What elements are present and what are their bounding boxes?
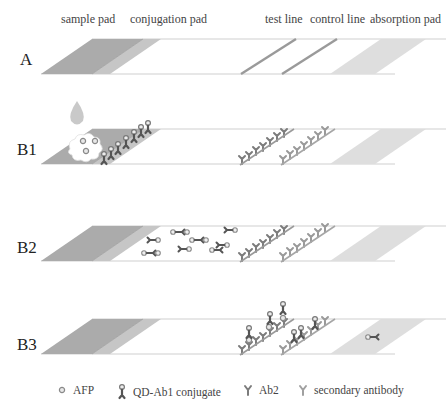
sample-blob [68, 133, 102, 161]
legend-item-conjugate: QD-Ab1 conjugate [117, 384, 221, 400]
strip-b3 [41, 302, 446, 355]
legend-item-ab2: Ab2 [243, 384, 279, 396]
lateral-flow-diagram: sample pad conjugation pad test line con… [0, 0, 448, 411]
legend-label-ab2: Ab2 [259, 384, 279, 396]
legend-label-conjugate: QD-Ab1 conjugate [133, 386, 221, 398]
strips-svg [0, 0, 448, 411]
legend-item-secondary: secondary antibody [298, 384, 404, 396]
strip-b1 [41, 121, 446, 165]
legend: AFP QD-Ab1 conjugate Ab2 secondary antib… [0, 384, 448, 404]
ab2-icon [243, 384, 253, 396]
strip-a [41, 39, 446, 74]
legend-label-secondary: secondary antibody [314, 384, 404, 396]
sample-drop-icon [70, 101, 84, 125]
secondary-antibody-icon [298, 384, 308, 396]
strip-b2 [41, 224, 446, 262]
afp-icon [57, 385, 67, 395]
legend-item-afp: AFP [57, 384, 94, 396]
legend-label-afp: AFP [73, 384, 94, 396]
qd-ab1-conjugate-icon [117, 384, 127, 400]
